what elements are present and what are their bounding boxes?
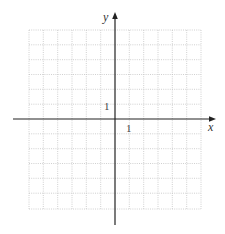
x-axis-label: x: [207, 120, 214, 134]
y-tick-label: 1: [104, 100, 110, 112]
y-axis-label: y: [102, 10, 109, 24]
x-tick-label: 1: [126, 122, 132, 134]
y-axis-arrow-icon: [112, 12, 118, 19]
coordinate-plane: y x 1 1: [0, 0, 225, 234]
